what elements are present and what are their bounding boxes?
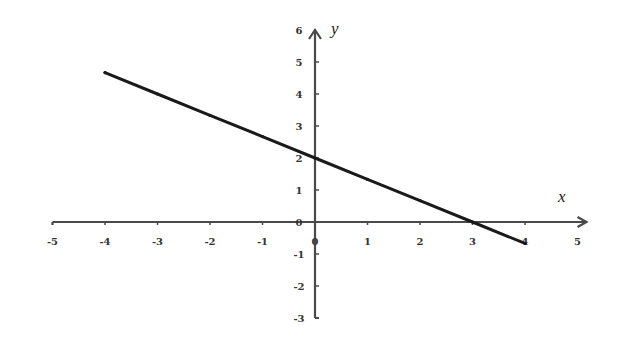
y-tick-label: -1 — [293, 249, 304, 260]
x-tick-label: 5 — [574, 236, 581, 247]
y-tick-label: 3 — [296, 121, 303, 132]
y-tick-label: 1 — [296, 185, 303, 196]
data-point — [523, 242, 526, 245]
data-point — [366, 178, 369, 181]
x-tick-label: -1 — [257, 236, 268, 247]
x-tick-label: -3 — [152, 236, 163, 247]
data-point — [208, 114, 211, 117]
axes — [53, 30, 587, 318]
y-tick-label: -2 — [293, 281, 304, 292]
y-tick-label: -3 — [293, 313, 304, 324]
y-tick-label: 6 — [296, 25, 303, 36]
data-point — [471, 220, 474, 223]
x-axis-label: x — [557, 187, 566, 206]
y-tick-label: 2 — [296, 153, 303, 164]
y-axis-label: y — [329, 19, 339, 38]
x-tick-label: 2 — [417, 236, 424, 247]
x-tick-label: 1 — [364, 236, 371, 247]
line-chart: -5-4-3-2-1012345-3-2-10123456 x y — [0, 0, 617, 352]
y-tick-label: 0 — [296, 217, 303, 228]
data-point — [313, 156, 316, 159]
x-tick-label: 3 — [469, 236, 476, 247]
x-tick-label: -5 — [47, 236, 58, 247]
x-tick-label: -4 — [99, 236, 110, 247]
x-tick-label: 0 — [312, 236, 319, 247]
x-tick-label: -2 — [204, 236, 215, 247]
data-point — [418, 199, 421, 202]
data-point — [261, 135, 264, 138]
data-point — [156, 92, 159, 95]
data-point — [103, 71, 106, 74]
y-tick-label: 4 — [296, 89, 303, 100]
y-tick-label: 5 — [296, 57, 303, 68]
